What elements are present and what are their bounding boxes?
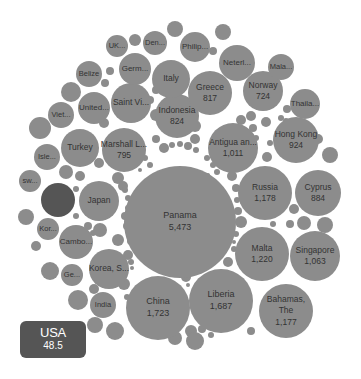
bubble-korea-s[interactable]: Korea, S...	[89, 249, 129, 289]
bubble[interactable]	[270, 221, 276, 227]
bubble[interactable]	[68, 290, 88, 310]
bubble[interactable]	[167, 21, 183, 37]
bubble[interactable]	[129, 34, 141, 46]
bubble-germ[interactable]: Germ...	[119, 53, 151, 85]
bubble-mala[interactable]: Mala...	[268, 54, 294, 80]
bubble[interactable]	[215, 24, 231, 40]
bubble-china[interactable]: China1,723	[126, 276, 190, 340]
bubble[interactable]	[247, 327, 255, 335]
bubble-italy[interactable]: Italy	[152, 60, 190, 98]
bubble[interactable]	[246, 111, 256, 121]
bubble-ge[interactable]: Ge...	[61, 264, 83, 286]
bubble[interactable]	[169, 142, 175, 148]
bubble[interactable]	[186, 283, 190, 287]
bubble[interactable]	[152, 135, 160, 143]
bubble-circle[interactable]	[41, 183, 75, 217]
bubble[interactable]	[89, 284, 99, 294]
bubble-turkey[interactable]: Turkey	[61, 129, 99, 167]
bubble[interactable]	[59, 165, 73, 179]
bubble[interactable]	[286, 220, 294, 228]
bubble[interactable]	[61, 82, 81, 102]
bubble-russia[interactable]: Russia1,178	[238, 166, 292, 220]
bubble-label: Cyprus	[305, 182, 332, 192]
bubble[interactable]	[75, 171, 85, 181]
bubble[interactable]	[186, 332, 204, 350]
bubble[interactable]	[130, 266, 134, 270]
bubble[interactable]	[73, 213, 79, 219]
bubble-india[interactable]: India	[90, 292, 116, 318]
bubble-value: 1,723	[147, 308, 170, 318]
bubble[interactable]	[204, 155, 210, 161]
bubble[interactable]	[297, 216, 311, 230]
bubble-belize[interactable]: Belize	[76, 61, 102, 87]
bubble-label: Indonesia	[159, 105, 196, 115]
bubble[interactable]	[29, 117, 51, 139]
bubble[interactable]	[322, 147, 338, 163]
bubble-greece[interactable]: Greece817	[188, 71, 232, 115]
bubble-label: Malta	[252, 243, 273, 253]
bubble-cyprus[interactable]: Cyprus884	[295, 170, 341, 216]
bubble-bahamas-the[interactable]: Bahamas,The1,177	[259, 284, 313, 338]
bubble-sw[interactable]: sw...	[19, 170, 41, 192]
bubble-hong-kong[interactable]: Hong Kong924	[273, 117, 319, 163]
bubble-philip[interactable]: Philip...	[180, 32, 210, 62]
bubble-den[interactable]: Den...	[143, 31, 167, 55]
bubble-united[interactable]: United...	[78, 92, 110, 124]
bubble[interactable]	[289, 204, 299, 214]
tooltip-country: USA	[20, 325, 86, 340]
bubble-label: United...	[79, 103, 109, 112]
bubble-value: 724	[256, 91, 270, 101]
bubble[interactable]	[208, 332, 214, 338]
bubble[interactable]	[101, 79, 109, 87]
bubble-label: Philip...	[182, 42, 208, 51]
bubble-thaila[interactable]: Thaila...	[290, 89, 320, 119]
bubble-isle[interactable]: Isle...	[34, 144, 60, 170]
bubble-label: Singapore	[296, 245, 335, 255]
bubble[interactable]	[112, 234, 124, 246]
bubble[interactable]	[317, 217, 333, 233]
bubble[interactable]	[31, 241, 41, 251]
bubble[interactable]	[193, 147, 199, 153]
bubble-uk[interactable]: UK...	[106, 35, 128, 57]
bubble[interactable]	[138, 168, 142, 172]
bubble-cambo[interactable]: Cambo...	[59, 225, 93, 259]
bubble-highlighted[interactable]	[41, 183, 75, 217]
bubble-saint-vi[interactable]: Saint Vi...	[111, 83, 151, 123]
bubble[interactable]	[177, 141, 183, 147]
bubble[interactable]	[41, 262, 59, 280]
bubble[interactable]	[18, 209, 34, 225]
bubble[interactable]	[73, 186, 79, 192]
bubble[interactable]	[235, 216, 247, 228]
bubble-label: China	[146, 296, 170, 306]
bubble-japan[interactable]: Japan	[79, 181, 119, 221]
bubble[interactable]	[106, 67, 114, 75]
bubble[interactable]	[184, 142, 192, 150]
bubble[interactable]	[87, 317, 103, 333]
bubble-kor[interactable]: Kor...	[37, 218, 59, 240]
bubble-label: Japan	[87, 195, 110, 205]
bubble[interactable]	[262, 152, 272, 162]
bubble[interactable]	[223, 257, 233, 267]
bubble-panama[interactable]: Panama5,473	[124, 166, 236, 278]
bubble[interactable]	[209, 47, 217, 55]
bubble[interactable]	[159, 143, 169, 153]
bubble[interactable]	[278, 115, 284, 121]
bubble[interactable]	[214, 169, 220, 175]
bubble[interactable]	[122, 187, 128, 193]
bubble[interactable]	[267, 140, 273, 146]
bubble[interactable]	[190, 134, 200, 144]
bubble-viet[interactable]: Viet...	[48, 102, 74, 128]
bubble-neterl[interactable]: Neterl...	[219, 45, 255, 81]
bubble-label: Italy	[163, 73, 179, 83]
bubble-marshall-l[interactable]: Marshall L...795	[101, 128, 147, 172]
bubble[interactable]	[106, 322, 124, 340]
bubble[interactable]	[261, 117, 271, 127]
bubble[interactable]	[93, 223, 107, 237]
bubble-label: Den...	[145, 38, 165, 47]
bubble[interactable]	[147, 162, 153, 168]
bubble-antigua-an[interactable]: Antigua an...1,011	[208, 123, 258, 173]
bubble-liberia[interactable]: Liberia1,687	[189, 269, 253, 333]
bubble-singapore[interactable]: Singapore1,063	[290, 231, 340, 281]
bubble-malta[interactable]: Malta1,220	[235, 227, 289, 281]
bubble[interactable]	[94, 158, 104, 168]
